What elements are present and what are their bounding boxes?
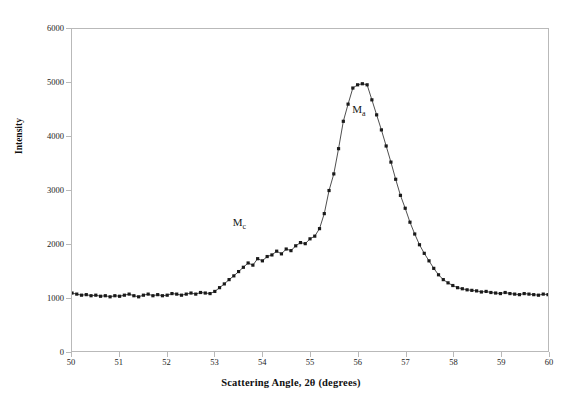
data-point-marker xyxy=(218,286,221,289)
data-point-marker xyxy=(113,294,116,297)
data-point-marker xyxy=(304,242,307,245)
data-point-marker xyxy=(223,282,226,285)
data-point-marker xyxy=(266,255,269,258)
data-point-marker xyxy=(323,212,326,215)
data-point-marker xyxy=(413,232,416,235)
data-point-marker xyxy=(204,291,207,294)
x-tick-label: 51 xyxy=(99,357,139,367)
data-point-marker xyxy=(442,278,445,281)
data-point-marker xyxy=(156,293,159,296)
y-tick-label: 0 xyxy=(0,347,72,357)
data-point-marker xyxy=(318,227,321,230)
data-point-marker xyxy=(147,293,150,296)
data-point-marker xyxy=(366,83,369,86)
data-point-marker xyxy=(308,237,311,240)
data-point-marker xyxy=(465,288,468,291)
data-point-marker xyxy=(351,86,354,89)
x-tick-label: 52 xyxy=(147,357,187,367)
x-tick-mark xyxy=(214,352,215,357)
intensity-markers xyxy=(72,82,548,298)
data-point-marker xyxy=(128,293,131,296)
data-point-marker xyxy=(342,120,345,123)
y-tick-label: 3000 xyxy=(0,185,72,195)
x-tick-mark xyxy=(310,352,311,357)
data-point-marker xyxy=(337,147,340,150)
data-point-marker xyxy=(499,292,502,295)
y-tick-label: 5000 xyxy=(0,77,72,87)
data-point-marker xyxy=(270,253,273,256)
data-point-marker xyxy=(75,293,78,296)
x-tick-mark xyxy=(262,352,263,357)
data-point-marker xyxy=(280,252,283,255)
annotation-mc-sub: c xyxy=(242,222,246,231)
data-point-marker xyxy=(423,252,426,255)
data-point-marker xyxy=(356,83,359,86)
data-point-marker xyxy=(227,278,230,281)
data-point-marker xyxy=(427,259,430,262)
annotation-ma-sub: a xyxy=(362,109,366,118)
data-point-marker xyxy=(542,293,545,296)
data-point-marker xyxy=(247,261,250,264)
data-point-marker xyxy=(518,293,521,296)
data-point-marker xyxy=(199,291,202,294)
x-tick-label: 50 xyxy=(51,357,91,367)
plot-area xyxy=(71,28,549,352)
data-point-marker xyxy=(451,284,454,287)
annotation-mc-main: M xyxy=(233,216,243,228)
data-point-marker xyxy=(394,178,397,181)
data-point-marker xyxy=(142,294,145,297)
x-tick-mark xyxy=(501,352,502,357)
data-point-marker xyxy=(89,294,92,297)
x-tick-label: 58 xyxy=(433,357,473,367)
data-point-marker xyxy=(527,293,530,296)
data-point-marker xyxy=(346,103,349,106)
data-point-marker xyxy=(151,294,154,297)
y-tick-label: 2000 xyxy=(0,239,72,249)
xrd-diffraction-figure: 0100020003000400050006000 50515253545556… xyxy=(0,0,582,412)
data-point-marker xyxy=(161,294,164,297)
data-point-marker xyxy=(118,295,121,298)
x-tick-mark xyxy=(453,352,454,357)
data-point-marker xyxy=(99,295,102,298)
data-point-marker xyxy=(532,293,535,296)
data-point-marker xyxy=(480,290,483,293)
data-point-marker xyxy=(104,294,107,297)
data-point-marker xyxy=(185,293,188,296)
data-point-marker xyxy=(72,291,74,294)
annotation-ma-main: M xyxy=(352,103,362,115)
data-point-marker xyxy=(375,113,378,116)
data-point-marker xyxy=(137,295,140,298)
data-series-plot xyxy=(72,29,548,351)
x-tick-label: 57 xyxy=(386,357,426,367)
data-point-marker xyxy=(546,293,548,296)
data-point-marker xyxy=(370,98,373,101)
data-point-marker xyxy=(446,281,449,284)
x-tick-label: 55 xyxy=(290,357,330,367)
data-point-marker xyxy=(194,293,197,296)
data-point-marker xyxy=(456,286,459,289)
data-point-marker xyxy=(251,264,254,267)
data-point-marker xyxy=(508,292,511,295)
data-point-marker xyxy=(437,273,440,276)
data-point-marker xyxy=(485,290,488,293)
x-tick-mark xyxy=(406,352,407,357)
annotation-peak-mc: Mc xyxy=(233,216,246,231)
data-point-marker xyxy=(361,82,364,85)
data-point-marker xyxy=(380,128,383,131)
x-tick-mark xyxy=(119,352,120,357)
y-tick-label: 1000 xyxy=(0,293,72,303)
x-tick-mark xyxy=(358,352,359,357)
data-point-marker xyxy=(189,291,192,294)
data-point-marker xyxy=(389,161,392,164)
data-point-marker xyxy=(232,274,235,277)
data-point-marker xyxy=(489,291,492,294)
data-point-marker xyxy=(537,294,540,297)
data-point-marker xyxy=(170,292,173,295)
x-tick-mark xyxy=(71,352,72,357)
data-point-marker xyxy=(94,294,97,297)
data-point-marker xyxy=(123,294,126,297)
data-point-marker xyxy=(294,244,297,247)
x-tick-mark xyxy=(167,352,168,357)
data-point-marker xyxy=(180,294,183,297)
x-tick-mark xyxy=(549,352,550,357)
